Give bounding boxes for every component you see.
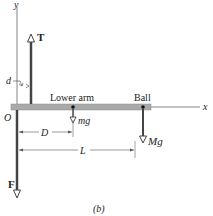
y-axis-label: y [13,0,19,10]
L-arrow-left-icon [19,149,23,152]
force-f-label: F [8,178,15,190]
D-arrow-left-icon [19,131,23,134]
tension-label: T [37,31,45,43]
ball-label: Ball [134,92,151,103]
origin-label: O [4,112,11,123]
diagram-svg: y x Lower arm Ball O T d F mg Mg [0,0,213,216]
lower-arm-label: Lower arm [50,92,94,103]
lower-arm-bar [11,104,151,110]
arm-weight-label: mg [78,115,90,126]
D-dimension-label: D [40,127,49,138]
d-dimension-marker [13,81,29,88]
free-body-diagram: y x Lower arm Ball O T d F mg Mg [0,0,213,216]
D-arrow-right-icon [68,131,72,134]
d-dimension-label: d [6,75,12,86]
L-arrow-right-icon [130,149,134,152]
ball-weight-arrowhead-icon [140,136,147,143]
force-f-arrowhead-icon [14,190,21,198]
L-dimension-label: L [79,145,86,156]
ball-weight-label: Mg [147,135,163,147]
tension-arrowhead-icon [28,34,35,42]
x-axis-label: x [202,101,208,112]
figure-caption: (b) [93,203,105,215]
